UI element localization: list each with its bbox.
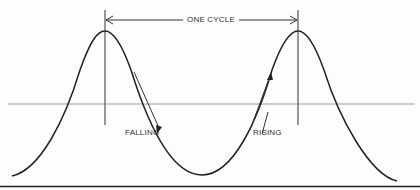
falling-arrow-shaft <box>134 72 159 128</box>
rising-label: RISING <box>253 128 282 137</box>
sine-wave-curve <box>12 31 397 181</box>
diagram-canvas <box>0 0 420 190</box>
one-cycle-label: ONE CYCLE <box>183 15 239 24</box>
falling-label: FALLING <box>125 128 159 137</box>
rising-arrow-shaft-2 <box>250 76 270 130</box>
rising-arrowhead-icon <box>267 72 273 80</box>
sine-cycle-diagram: ONE CYCLE FALLING RISING <box>0 0 420 190</box>
